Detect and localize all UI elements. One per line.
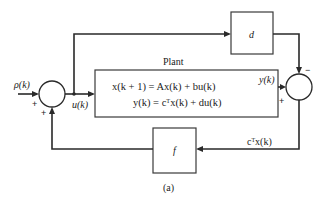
control-arrow	[88, 91, 95, 97]
feedback-arrow	[196, 146, 203, 152]
input-arrow	[32, 91, 39, 97]
input-plus-sign: +	[32, 99, 37, 109]
block-diagram: ρ(k) + + u(k) Plant x(k + 1) = Ax(k) + b…	[0, 0, 329, 204]
plant-equation-2: y(k) = cᵀx(k) + du(k)	[133, 97, 222, 109]
right-summing-junction	[286, 74, 312, 100]
left-summing-junction	[39, 81, 65, 107]
figure-caption: (a)	[163, 182, 174, 194]
control-label: u(k)	[72, 99, 89, 111]
plant-equation-1: x(k + 1) = Ax(k) + bu(k)	[112, 81, 216, 93]
d-output-line	[273, 34, 299, 72]
f-output-arrow	[49, 107, 55, 114]
output-plus-sign: +	[279, 96, 284, 106]
feedback-label: cᵀx(k)	[247, 136, 272, 148]
d-output-arrow	[296, 67, 302, 74]
d-input-arrow	[224, 31, 231, 37]
output-arrow	[280, 84, 286, 90]
input-label: ρ(k)	[13, 79, 31, 91]
plant-title: Plant	[163, 56, 184, 67]
feedback-plus-sign: +	[41, 108, 46, 118]
plant-block	[95, 70, 278, 117]
d-path-minus-sign: −	[305, 65, 310, 75]
output-label: y(k)	[258, 74, 275, 86]
